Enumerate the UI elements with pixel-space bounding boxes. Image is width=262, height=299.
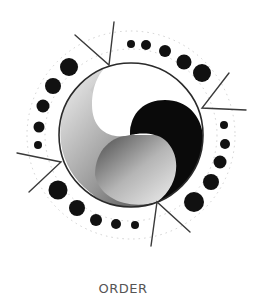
caption-label: ORDER <box>0 281 246 296</box>
swirl-symbol <box>55 60 207 210</box>
order-emblem <box>0 0 262 260</box>
